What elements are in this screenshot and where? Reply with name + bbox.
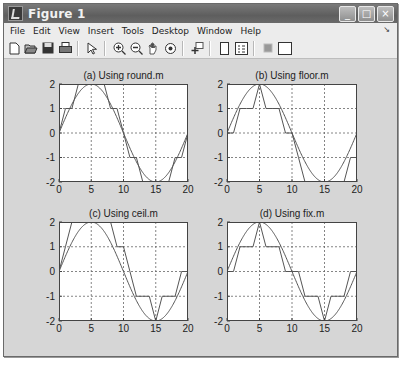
subplot-c[interactable]: 05101520-2-1012(c) Using ceil.m (46, 208, 194, 334)
dock-arrow-icon[interactable]: ↘ (383, 25, 390, 34)
menu-file[interactable]: File (10, 26, 25, 36)
menu-tools[interactable]: Tools (122, 26, 144, 36)
open-file-icon[interactable] (24, 41, 38, 55)
toolbar-separator (77, 41, 79, 56)
subplot-title: (b) Using floor.m (255, 70, 328, 81)
x-tick-label: 10 (118, 184, 130, 195)
edit-plot-arrow-icon[interactable] (85, 41, 99, 55)
legend-icon[interactable] (234, 41, 248, 55)
y-tick-label: -1 (214, 291, 223, 302)
y-tick-label: -1 (46, 152, 55, 163)
new-figure-icon[interactable] (7, 41, 21, 55)
print-icon[interactable] (58, 41, 72, 55)
menu-bar: File Edit View Insert Tools Desktop Wind… (4, 23, 397, 38)
x-tick-label: 20 (182, 184, 194, 195)
figure-canvas: 05101520-2-1012(a) Using round.m05101520… (4, 59, 397, 356)
y-tick-label: 0 (49, 128, 55, 139)
x-tick-label: 0 (224, 323, 230, 334)
y-tick-label: -1 (46, 291, 55, 302)
menu-desktop[interactable]: Desktop (152, 26, 189, 36)
y-tick-label: 1 (49, 103, 55, 114)
x-tick-label: 5 (257, 184, 263, 195)
y-tick-label: -1 (214, 152, 223, 163)
y-tick-label: 0 (49, 266, 55, 277)
menu-view[interactable]: View (59, 26, 80, 36)
zoom-in-icon[interactable] (112, 41, 126, 55)
window-title: Figure 1 (28, 7, 86, 21)
x-tick-label: 15 (150, 323, 162, 334)
toolbar-separator (182, 41, 184, 56)
x-tick-label: 10 (118, 323, 130, 334)
x-tick-label: 5 (88, 184, 94, 195)
minimize-button[interactable]: _ (339, 6, 356, 22)
x-tick-label: 5 (257, 323, 263, 334)
maximize-button[interactable]: □ (358, 6, 375, 22)
y-tick-label: 1 (217, 103, 223, 114)
matlab-figure-icon (8, 6, 23, 21)
colorbar-icon[interactable] (217, 41, 231, 55)
subplot-title: (d) Using fix.m (260, 208, 324, 219)
subplot-title: (c) Using ceil.m (89, 208, 158, 219)
y-tick-label: -2 (46, 316, 55, 327)
x-tick-label: 5 (88, 323, 94, 334)
y-tick-label: 1 (217, 241, 223, 252)
y-tick-label: 0 (217, 266, 223, 277)
subplot-grid: 05101520-2-1012(a) Using round.m05101520… (4, 59, 397, 356)
y-tick-label: -2 (214, 316, 223, 327)
x-tick-label: 10 (286, 323, 298, 334)
x-tick-label: 20 (351, 323, 363, 334)
title-bar[interactable]: Figure 1 _ □ × (4, 4, 397, 23)
x-tick-label: 15 (150, 184, 162, 195)
zoom-out-icon[interactable] (129, 41, 143, 55)
menu-insert[interactable]: Insert (88, 26, 114, 36)
y-tick-label: 0 (217, 128, 223, 139)
x-tick-label: 0 (224, 184, 230, 195)
hide-plot-tools-icon[interactable] (261, 41, 275, 55)
menu-window[interactable]: Window (197, 26, 233, 36)
minimize-icon: _ (345, 8, 350, 19)
toolbar-separator (253, 41, 255, 56)
data-cursor-icon[interactable] (190, 41, 204, 55)
maximize-icon: □ (362, 8, 371, 19)
window-controls: _ □ × (339, 6, 394, 22)
figure-toolbar (4, 38, 397, 59)
x-tick-label: 10 (286, 184, 298, 195)
x-tick-label: 15 (319, 323, 331, 334)
toolbar-separator (209, 41, 211, 56)
pan-hand-icon[interactable] (146, 41, 160, 55)
y-tick-label: -2 (214, 177, 223, 188)
subplot-d[interactable]: 05101520-2-1012(d) Using fix.m (214, 208, 363, 334)
x-tick-label: 15 (319, 184, 331, 195)
save-icon[interactable] (41, 41, 55, 55)
subplot-a[interactable]: 05101520-2-1012(a) Using round.m (46, 70, 194, 195)
figure-window: Figure 1 _ □ × File Edit View Insert Too… (3, 3, 398, 357)
menu-help[interactable]: Help (240, 26, 261, 36)
subplot-b[interactable]: 05101520-2-1012(b) Using floor.m (214, 70, 363, 195)
y-tick-label: 2 (49, 79, 55, 90)
x-tick-label: 0 (56, 323, 62, 334)
subplot-title: (a) Using round.m (83, 70, 163, 81)
rotate-3d-icon[interactable] (163, 41, 177, 55)
toolbar-separator (104, 41, 106, 56)
y-tick-label: 1 (49, 241, 55, 252)
y-tick-label: 2 (49, 217, 55, 228)
close-icon: × (381, 8, 389, 19)
show-plot-tools-icon[interactable] (278, 41, 292, 55)
x-tick-label: 0 (56, 184, 62, 195)
y-tick-label: -2 (46, 177, 55, 188)
close-button[interactable]: × (377, 6, 394, 22)
y-tick-label: 2 (217, 217, 223, 228)
menu-edit[interactable]: Edit (33, 26, 50, 36)
x-tick-label: 20 (351, 184, 363, 195)
x-tick-label: 20 (182, 323, 194, 334)
y-tick-label: 2 (217, 79, 223, 90)
